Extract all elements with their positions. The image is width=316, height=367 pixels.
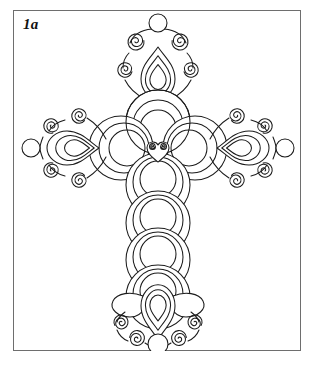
left-terminal <box>22 106 106 190</box>
bottom-terminal <box>111 285 204 351</box>
figure-label: 1a <box>23 17 38 32</box>
left-terminal-disc <box>22 139 40 157</box>
bottom-terminal-teardrop <box>141 285 175 340</box>
top-terminal <box>116 14 200 99</box>
bottom-terminal-disc <box>148 334 168 351</box>
ornamental-cross-drawing <box>13 10 301 351</box>
right-terminal-disc <box>276 139 294 157</box>
right-terminal <box>210 106 294 190</box>
top-terminal-disc <box>149 14 167 32</box>
figure-root: 1a <box>0 0 316 367</box>
